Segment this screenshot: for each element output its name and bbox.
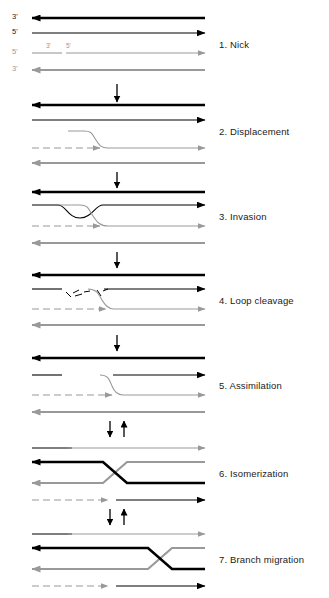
panel-6-isomerization <box>32 448 205 500</box>
panel-3-invasion <box>32 192 205 243</box>
assimilated-light-strand <box>100 375 205 395</box>
label-strand1-3prime: 3' <box>12 12 18 21</box>
loop-fragment <box>66 292 71 297</box>
transition-arrow-6-reversible <box>110 509 124 525</box>
dark-crossover-strand <box>32 548 205 569</box>
step-label-7-branch-migration: 7. Branch migration <box>219 554 304 565</box>
panel-4-loop-cleavage <box>32 275 205 325</box>
label-nick-right-5prime: 5' <box>66 42 71 49</box>
step-label-2-displacement: 2. Displacement <box>219 126 289 137</box>
light-crossover-strand <box>32 462 205 483</box>
loop-fragment <box>73 290 79 293</box>
cleaved-loop-fragments <box>66 289 108 297</box>
crossed-light-strand <box>88 289 205 309</box>
panel-1-nick <box>32 18 205 70</box>
label-strand2-5prime: 5' <box>12 27 18 36</box>
dark-strand-with-loop <box>32 205 205 218</box>
panel-7-branch-migration <box>32 534 205 586</box>
displaced-light-strand <box>68 131 205 148</box>
invading-light-strand <box>60 205 205 226</box>
loop-fragment <box>75 294 82 296</box>
step-label-3-invasion: 3. Invasion <box>219 211 267 222</box>
light-crossover-strand <box>32 548 205 569</box>
label-nick-left-3prime: 3' <box>46 42 51 49</box>
label-strand3-5prime: 5' <box>12 47 18 56</box>
step-label-6-isomerization: 6. Isomerization <box>219 468 288 479</box>
step-label-4-loop-cleavage: 4. Loop cleavage <box>219 295 294 306</box>
loop-fragment <box>84 291 90 292</box>
dna-strand-exchange-figure: 3' 5' 5' 3' 3' 5' 1. Nick 2. Displacemen… <box>0 0 329 598</box>
dark-crossover-strand <box>32 462 205 483</box>
panel-2-displacement <box>32 105 205 163</box>
panel-5-assimilation <box>32 358 205 412</box>
label-strand4-3prime: 3' <box>12 64 18 73</box>
step-label-1-nick: 1. Nick <box>219 39 249 50</box>
transition-arrow-5-reversible <box>110 421 124 437</box>
step-label-5-assimilation: 5. Assimilation <box>219 380 282 391</box>
